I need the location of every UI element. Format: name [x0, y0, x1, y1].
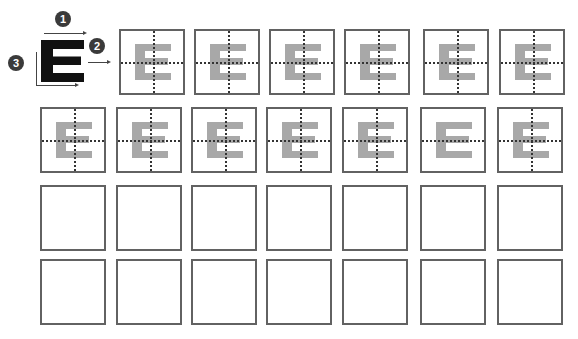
trace-cell	[499, 29, 565, 95]
blank-practice-cell	[191, 259, 257, 325]
blank-practice-cell	[266, 259, 332, 325]
blank-practice-cell	[40, 259, 106, 325]
vertical-guide-line	[457, 31, 459, 93]
blank-practice-cell	[420, 185, 486, 251]
blank-practice-cell	[116, 259, 182, 325]
trace-cell	[40, 107, 106, 173]
trace-cell	[266, 107, 332, 173]
trace-cell	[119, 29, 185, 95]
vertical-guide-line	[225, 109, 227, 171]
letter-e-icon	[41, 40, 84, 82]
trace-cell	[116, 107, 182, 173]
blank-practice-cell	[40, 185, 106, 251]
trace-cell	[420, 107, 486, 173]
vertical-guide-line	[378, 31, 380, 93]
horizontal-guide-line	[196, 62, 258, 64]
vertical-guide-line	[376, 109, 378, 171]
horizontal-guide-line	[121, 62, 183, 64]
blank-practice-cell	[116, 185, 182, 251]
height-arrow-line-icon	[36, 52, 37, 86]
vertical-guide-line	[228, 31, 230, 93]
trace-cell	[194, 29, 260, 95]
blank-practice-cell	[497, 185, 563, 251]
horizontal-guide-line	[268, 140, 330, 142]
badge-3: 3	[8, 55, 24, 71]
vertical-guide-line	[300, 109, 302, 171]
badge-2: 2	[89, 38, 105, 54]
trace-cell	[423, 29, 489, 95]
blank-practice-cell	[342, 259, 408, 325]
badge-1: 1	[55, 11, 71, 27]
midline-arrow-icon	[88, 62, 108, 63]
horizontal-guide-line	[271, 62, 333, 64]
horizontal-guide-line	[118, 140, 180, 142]
vertical-guide-line	[74, 109, 76, 171]
blank-practice-cell	[191, 185, 257, 251]
blank-practice-cell	[266, 185, 332, 251]
height-arrow-base-icon	[36, 85, 76, 86]
vertical-guide-line	[303, 31, 305, 93]
horizontal-guide-line	[499, 140, 561, 142]
horizontal-guide-line	[193, 140, 255, 142]
letter-e-legend: 1 2 3	[0, 0, 120, 100]
vertical-guide-line	[531, 109, 533, 171]
blank-practice-cell	[497, 259, 563, 325]
trace-cell	[191, 107, 257, 173]
width-arrow-icon	[44, 33, 84, 34]
horizontal-guide-line	[42, 140, 104, 142]
horizontal-guide-line	[344, 140, 406, 142]
trace-cell	[344, 29, 410, 95]
trace-cell	[269, 29, 335, 95]
trace-cell	[497, 107, 563, 173]
horizontal-guide-line	[422, 140, 484, 142]
horizontal-guide-line	[425, 62, 487, 64]
vertical-guide-line	[150, 109, 152, 171]
blank-practice-cell	[342, 185, 408, 251]
blank-practice-cell	[420, 259, 486, 325]
trace-cell	[342, 107, 408, 173]
vertical-guide-line	[533, 31, 535, 93]
vertical-guide-line	[153, 31, 155, 93]
horizontal-guide-line	[346, 62, 408, 64]
horizontal-guide-line	[501, 62, 563, 64]
